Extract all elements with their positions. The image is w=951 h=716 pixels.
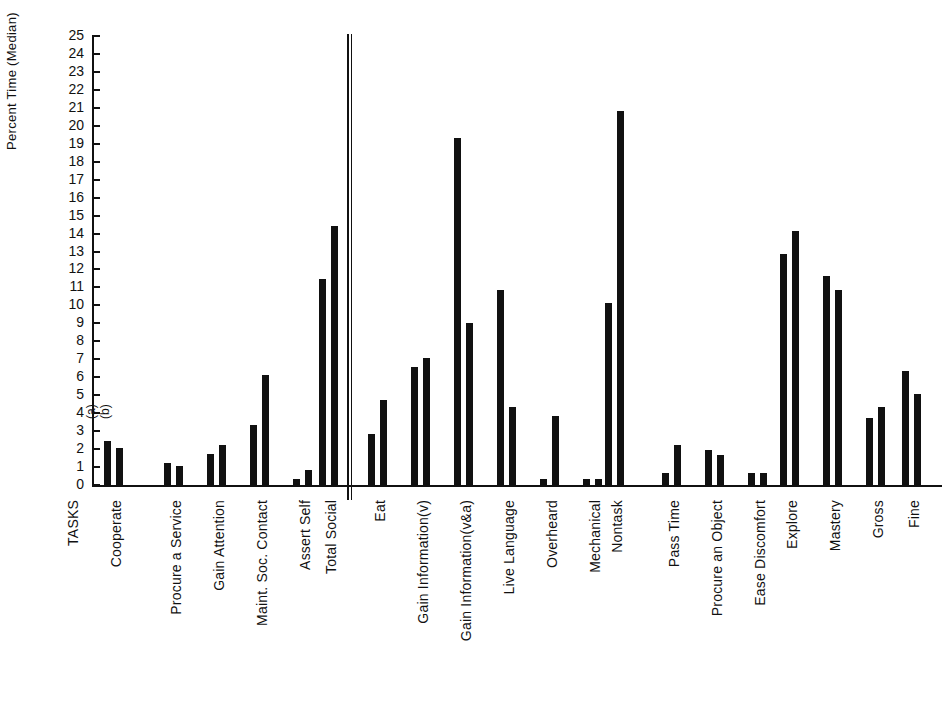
bar-a — [250, 425, 257, 486]
bar-a — [583, 479, 590, 486]
bar-b — [466, 323, 473, 486]
y-tick-label: 15 — [58, 208, 84, 222]
y-tick-label: 21 — [58, 100, 84, 114]
bar-b — [878, 407, 885, 486]
y-tick-label: 4 — [58, 405, 84, 419]
x-axis-label: Procure a Service — [168, 500, 184, 615]
bar-a — [411, 367, 418, 486]
y-tick-label: 17 — [58, 172, 84, 186]
y-tick-label: 9 — [58, 315, 84, 329]
y-tick-label: 6 — [58, 369, 84, 383]
bar-b — [552, 416, 559, 486]
y-tick-label: 0 — [58, 477, 84, 491]
bar-b — [792, 231, 799, 486]
bar-a — [497, 290, 504, 486]
annotation-b: (b) — [98, 404, 112, 419]
y-tick-label: 7 — [58, 351, 84, 365]
bar-a — [662, 473, 669, 486]
y-tick-label: 3 — [58, 423, 84, 437]
x-axis-label: Ease Discomfort — [752, 500, 768, 606]
x-axis-label: Mechanical — [587, 500, 603, 573]
bar-b — [835, 290, 842, 486]
bar-a — [319, 279, 326, 486]
bar-b — [219, 445, 226, 486]
y-tick-label: 20 — [58, 118, 84, 132]
bar-a — [368, 434, 375, 486]
x-axis-label: Overheard — [544, 500, 560, 568]
bar-b — [674, 445, 681, 486]
x-axis-label: Explore — [784, 500, 800, 549]
y-tick-label: 10 — [58, 297, 84, 311]
bar-b — [305, 470, 312, 486]
bar-b — [116, 448, 123, 486]
bar-a — [780, 254, 787, 486]
y-tick-label: 14 — [58, 226, 84, 240]
bar-a — [705, 450, 712, 486]
x-axis-label: Gain Information(v) — [415, 500, 431, 624]
x-axis-label: Fine — [906, 500, 922, 528]
y-tick-label: 5 — [58, 387, 84, 401]
y-tick-label: 22 — [58, 82, 84, 96]
bar-b — [760, 473, 767, 486]
bar-b — [331, 226, 338, 486]
bar-b — [509, 407, 516, 486]
bar-a — [823, 276, 830, 486]
bar-a — [207, 454, 214, 486]
y-tick-label: 18 — [58, 154, 84, 168]
bar-a — [748, 473, 755, 486]
y-tick-label: 1 — [58, 459, 84, 473]
bar-a — [902, 371, 909, 486]
bar-a — [605, 303, 612, 486]
x-axis-label: Maint. Soc. Contact — [254, 500, 270, 626]
x-axis-label: TASKS — [65, 500, 81, 546]
bar-a — [104, 441, 111, 486]
bar-chart: Percent Time (Median) 012345678910111213… — [0, 0, 951, 716]
bar-a — [454, 138, 461, 486]
bar-a — [540, 479, 547, 486]
bar-b — [914, 394, 921, 486]
bar-b — [380, 400, 387, 486]
x-axis-label: Eat — [372, 500, 388, 522]
y-axis-title: Percent Time (Median) — [4, 12, 19, 150]
x-axis-label: Nontask — [609, 500, 625, 553]
group-divider-line — [347, 34, 349, 500]
y-tick-label: 13 — [58, 244, 84, 258]
y-tick-label: 16 — [58, 190, 84, 204]
x-axis-label: Assert Self — [297, 500, 313, 570]
bar-a — [866, 418, 873, 486]
bar-b — [262, 375, 269, 486]
y-tick-label: 23 — [58, 64, 84, 78]
y-tick-label: 24 — [58, 46, 84, 60]
y-tick-label: 12 — [58, 261, 84, 275]
y-tick-label: 11 — [58, 279, 84, 293]
plot-area — [94, 36, 940, 486]
y-tick-label: 2 — [58, 441, 84, 455]
x-axis-label: Procure an Object — [709, 500, 725, 616]
bar-b — [176, 466, 183, 486]
x-axis-label: Gain Attention — [211, 500, 227, 591]
x-axis-label: Live Language — [501, 500, 517, 594]
bar-b — [595, 479, 602, 486]
x-axis-label: Total Social — [323, 500, 339, 574]
x-axis-label: Pass Time — [666, 500, 682, 567]
annotation-a: (a) — [84, 404, 98, 419]
y-tick-label: 19 — [58, 136, 84, 150]
x-axis-label: Mastery — [827, 500, 843, 551]
bar-a — [293, 479, 300, 486]
x-axis-label: Cooperate — [108, 500, 124, 567]
bar-b — [423, 358, 430, 486]
bar-b — [617, 111, 624, 486]
y-tick-label: 8 — [58, 333, 84, 347]
x-axis-label: Gain Information(v&a) — [458, 500, 474, 641]
bar-a — [164, 463, 171, 486]
group-divider-line — [351, 34, 352, 500]
bar-b — [717, 455, 724, 486]
y-tick-label: 25 — [58, 28, 84, 42]
x-axis-label: Gross — [870, 500, 886, 538]
